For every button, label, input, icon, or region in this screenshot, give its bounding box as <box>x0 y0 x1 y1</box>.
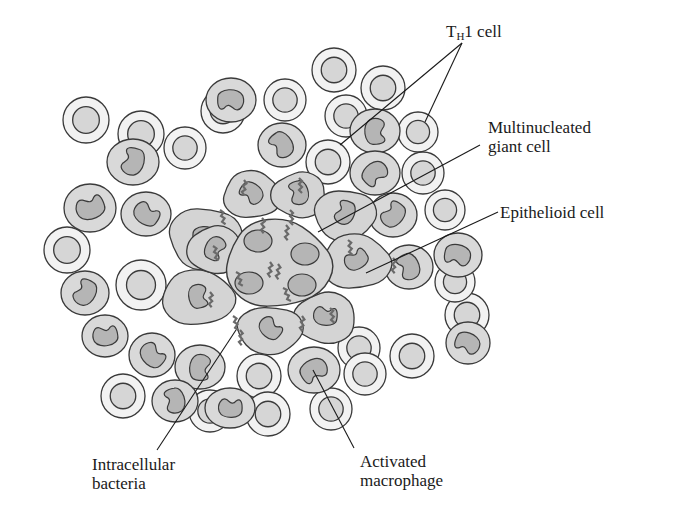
th1-nucleus <box>73 107 100 134</box>
macrophage-cell <box>288 347 340 393</box>
macrophage-cell <box>64 184 116 232</box>
macrophage-cell <box>61 271 109 315</box>
th1-nucleus <box>399 343 425 369</box>
th1-cell <box>44 227 90 273</box>
th1-cell <box>402 152 444 194</box>
label-giant-line2: giant cell <box>488 137 591 156</box>
macrophage-nucleus <box>218 90 244 110</box>
label-macrophage-line1: Activated <box>360 452 443 471</box>
macrophage-cell <box>129 333 175 377</box>
th1-nucleus <box>406 120 429 143</box>
macrophage-cell <box>82 315 128 357</box>
th1-cell <box>264 79 306 121</box>
macrophage-cell <box>107 139 159 185</box>
label-epithelioid-cell: Epithelioid cell <box>500 203 604 222</box>
th1-nucleus <box>321 57 347 83</box>
macrophage-cell <box>385 245 433 289</box>
macrophage-cell <box>121 192 171 236</box>
label-giant-line1: Multinucleated <box>488 118 591 137</box>
macrophage-cell <box>152 380 198 422</box>
th1-cell <box>390 334 434 378</box>
th1-cell <box>116 260 166 310</box>
th1-cell <box>310 388 352 430</box>
giant-cell-nucleus <box>288 274 316 296</box>
label-th1-prefix: T <box>446 22 456 41</box>
th1-nucleus <box>319 397 343 421</box>
epithelioid-cell <box>237 308 303 355</box>
label-activated-macrophage: Activated macrophage <box>360 452 443 490</box>
th1-nucleus <box>411 161 435 185</box>
label-bacteria-line1: Intracellular <box>92 455 175 474</box>
epithelioid-cell <box>314 191 376 242</box>
macrophage-cell <box>206 78 256 122</box>
label-macrophage-line2: macrophage <box>360 471 443 490</box>
th1-cell <box>101 374 145 418</box>
th1-nucleus <box>273 88 297 112</box>
macrophage-cell <box>350 151 400 195</box>
th1-nucleus <box>110 383 136 409</box>
th1-nucleus <box>315 149 341 175</box>
th1-cell <box>344 353 386 395</box>
th1-cell <box>398 112 438 152</box>
macrophage-cell <box>258 123 306 167</box>
th1-nucleus <box>127 271 156 300</box>
th1-nucleus <box>255 401 281 427</box>
multinucleated-giant-cell <box>227 219 333 306</box>
macrophage-cell <box>205 388 255 428</box>
th1-cell <box>164 127 206 169</box>
th1-cell <box>63 97 109 143</box>
th1-cell <box>312 48 356 92</box>
th1-nucleus <box>353 362 377 386</box>
th1-nucleus <box>433 198 456 221</box>
th1-cell <box>361 66 405 110</box>
epithelioid-cell <box>163 270 236 324</box>
th1-nucleus <box>370 75 396 101</box>
th1-nucleus <box>173 136 197 160</box>
macrophage-cell <box>446 322 490 364</box>
giant-cell-nucleus <box>244 230 272 252</box>
th1-leader-b <box>425 43 462 122</box>
th1-nucleus <box>54 237 81 264</box>
label-th1-cell: TH1 cell <box>446 22 502 46</box>
label-giant-cell: Multinucleated giant cell <box>488 118 591 156</box>
label-th1-suffix: 1 cell <box>464 22 501 41</box>
giant-cell-nucleus <box>291 243 319 265</box>
th1-nucleus <box>246 363 272 389</box>
label-intracellular-bacteria: Intracellular bacteria <box>92 455 175 493</box>
label-bacteria-line2: bacteria <box>92 474 175 493</box>
macrophage-nucleus <box>218 399 242 418</box>
th1-cell <box>425 190 465 230</box>
macrophage-cell <box>434 233 482 277</box>
granuloma-diagram <box>0 0 678 511</box>
